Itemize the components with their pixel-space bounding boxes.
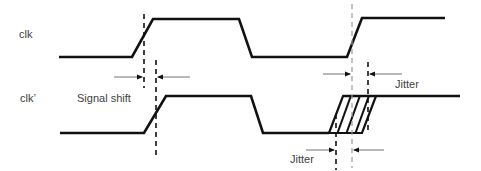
signal-shift-label: Signal shift — [77, 93, 131, 104]
jitter-top-arrows — [323, 72, 402, 77]
jitter-top-label: Jitter — [395, 79, 419, 90]
clk-label: clk — [19, 29, 32, 40]
jitter-bottom-label: Jitter — [290, 154, 314, 165]
jitter-band — [329, 90, 460, 140]
jitter-bottom-arrows — [306, 148, 384, 153]
clk-prime-label: clk’ — [20, 93, 36, 104]
clk-waveform — [59, 18, 445, 57]
signal-shift-arrows — [114, 75, 190, 80]
